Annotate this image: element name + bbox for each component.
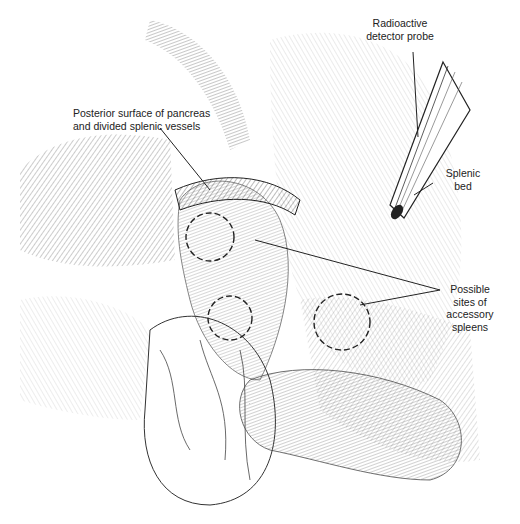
label-probe: Radioactive detector probe <box>345 17 455 42</box>
label-accessory-spleens: Possible sites of accessory spleens <box>440 283 500 333</box>
anatomy-drawing <box>0 0 520 524</box>
label-pancreas: Posterior surface of pancreas and divide… <box>73 107 253 132</box>
lower-left-tissue <box>20 296 150 420</box>
left-tissue <box>20 134 175 266</box>
label-splenic-bed: Splenic bed <box>438 167 488 192</box>
illustration-canvas: Radioactive detector probe Posterior sur… <box>0 0 520 524</box>
pancreas <box>178 181 288 380</box>
